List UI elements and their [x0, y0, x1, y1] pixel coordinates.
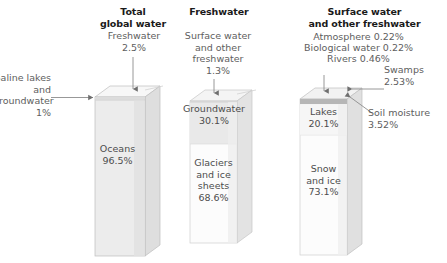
column1-title-line2: global water: [100, 18, 166, 29]
bar1-front-shade: [134, 101, 145, 256]
label-soil-moisture: Soil moisture 3.52%: [368, 107, 447, 130]
label-saline-lakes-groundwater: Saline lakes and groundwater 1%: [0, 72, 51, 118]
bar3-band-thin-segments: [300, 99, 347, 104]
bar2-side-face: [237, 90, 252, 243]
bar1-band-freshwater: [95, 97, 145, 99]
label-atmosphere: Atmosphere 0.22%: [276, 31, 441, 43]
bar2-front-shade: [228, 102, 237, 243]
bar-surface-water: [300, 88, 362, 255]
column-title-total-global-water: Total global water: [78, 6, 188, 29]
bar3-side-face: [347, 88, 362, 255]
column-title-surface-water: Surface water and other freshwater: [282, 6, 447, 29]
column2-title-line1: Freshwater: [189, 6, 248, 17]
bar1-side-face: [145, 86, 160, 256]
water-distribution-figure: Total global water Freshwater 2.5% Salin…: [0, 0, 447, 263]
label-surface-water-1-3: Surface water and other freshwater 1.3%: [168, 30, 268, 76]
label-rivers: Rivers 0.46%: [276, 53, 441, 65]
column3-title-line1: Surface water: [328, 6, 402, 17]
column-title-freshwater: Freshwater: [174, 6, 264, 18]
label-biological-water: Biological water 0.22%: [276, 42, 441, 54]
bar-total-global-water: [95, 86, 160, 256]
bar1-band-saline: [95, 99, 145, 100]
label-swamps: Swamps 2.53%: [384, 64, 447, 87]
bar3-front-shade: [338, 104, 347, 255]
bar-freshwater: [190, 90, 252, 243]
column1-title-line1: Total: [120, 6, 145, 17]
column3-title-line2: and other freshwater: [308, 18, 420, 29]
